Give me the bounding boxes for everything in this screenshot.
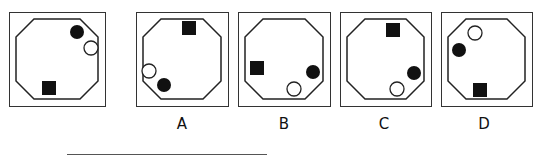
octagon-shape — [245, 19, 323, 99]
black-circle-icon — [157, 78, 171, 92]
black-circle-icon — [452, 43, 466, 57]
black-square-icon — [42, 81, 56, 95]
black-square-icon — [182, 21, 196, 35]
white-circle-icon — [468, 26, 482, 40]
white-circle-icon — [84, 41, 98, 55]
black-circle-icon — [70, 25, 84, 39]
answer-line — [67, 154, 267, 155]
black-square-icon — [386, 23, 400, 37]
option-a-label: A — [172, 115, 192, 133]
octagon-shape — [16, 19, 98, 99]
black-square-icon — [473, 83, 487, 97]
white-circle-icon — [287, 82, 301, 96]
black-circle-icon — [407, 66, 421, 80]
option-c-label: C — [374, 115, 394, 133]
option-b-figure[interactable] — [238, 12, 331, 107]
option-d-figure[interactable] — [441, 12, 533, 107]
black-square-icon — [250, 61, 264, 75]
option-c-figure[interactable] — [340, 12, 432, 107]
stem-figure — [9, 12, 106, 107]
option-a-figure[interactable] — [136, 12, 229, 107]
octagon-shape — [347, 19, 424, 99]
option-d-label: D — [474, 115, 494, 133]
black-circle-icon — [306, 65, 320, 79]
white-circle-icon — [390, 82, 404, 96]
white-circle-icon — [142, 64, 156, 78]
option-b-label: B — [274, 115, 294, 133]
